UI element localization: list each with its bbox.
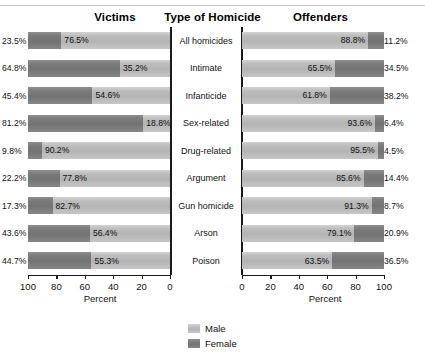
legend-swatch-female-icon (188, 339, 200, 348)
victims-male-segment: 82.7% (53, 197, 170, 214)
header-offenders: Offenders (268, 11, 373, 23)
axis-tick (299, 275, 300, 279)
offenders-male-value: 61.8% (302, 91, 326, 100)
category-label: Drug-related (172, 142, 240, 159)
offenders-male-segment: 61.8% (242, 87, 330, 104)
victims-male-segment: 18.8% (143, 115, 170, 132)
victims-female-segment (28, 32, 61, 49)
axis-tick (242, 275, 243, 279)
header-victims: Victims (60, 11, 170, 23)
victims-male-segment: 76.5% (61, 32, 170, 49)
offenders-female-value: 8.7% (384, 197, 404, 214)
chart-row: 22.2%77.8%Argument85.6%14.4% (0, 165, 425, 192)
offenders-female-value: 14.4% (384, 170, 408, 187)
offenders-female-segment (372, 197, 384, 214)
category-label: Intimate (172, 60, 240, 77)
offenders-female-segment (354, 225, 384, 242)
victims-male-segment: 54.6% (92, 87, 170, 104)
offenders-male-value: 95.5% (350, 146, 374, 155)
victims-male-value: 76.5% (64, 36, 88, 45)
offenders-bar: 93.6% (242, 115, 384, 132)
offenders-male-value: 79.1% (327, 229, 351, 238)
top-divider (0, 5, 425, 6)
axis-line (242, 275, 384, 276)
offenders-male-segment: 91.3% (242, 197, 372, 214)
victims-bar: 77.8% (28, 170, 170, 187)
offenders-female-value: 38.2% (384, 87, 408, 104)
victims-male-value: 90.2% (45, 146, 69, 155)
offenders-male-segment: 85.6% (242, 170, 364, 187)
offenders-bar: 79.1% (242, 225, 384, 242)
axis-tick (56, 275, 57, 279)
victims-female-segment (28, 225, 90, 242)
category-label: Gun homicide (172, 197, 240, 214)
victims-female-segment (28, 252, 91, 269)
chart-row: 44.7%55.3%Poison63.5%36.5% (0, 247, 425, 274)
axis-tick-label: 0 (230, 281, 254, 292)
victims-male-value: 55.3% (94, 257, 118, 266)
category-label: Infanticide (172, 87, 240, 104)
axis-tick (113, 275, 114, 279)
legend-item-female: Female (188, 337, 237, 350)
axis-tick-label: 60 (73, 281, 97, 292)
victims-male-segment: 55.3% (91, 252, 170, 269)
victims-male-value: 77.8% (63, 174, 87, 183)
victims-female-value: 81.2% (2, 115, 26, 132)
axis-tick (85, 275, 86, 279)
victims-male-value: 82.7% (56, 202, 80, 211)
victims-bar: 56.4% (28, 225, 170, 242)
left-axis-title: Percent (0, 293, 200, 304)
axis-tick (270, 275, 271, 279)
chart-row: 23.5%76.5%All homicides88.8%11.2% (0, 27, 425, 54)
offenders-female-segment (332, 252, 384, 269)
axis-tick (142, 275, 143, 279)
axis-tick (170, 275, 171, 279)
offenders-male-segment: 79.1% (242, 225, 354, 242)
homicide-gender-chart: Victims Type of Homicide Offenders 23.5%… (0, 0, 425, 354)
victims-bar: 82.7% (28, 197, 170, 214)
victims-bar: 54.6% (28, 87, 170, 104)
right-axis: Percent 020406080100 (225, 275, 425, 305)
offenders-female-segment (330, 87, 384, 104)
victims-female-segment (28, 142, 42, 159)
offenders-bar: 91.3% (242, 197, 384, 214)
chart-row: 43.6%56.4%Arson79.1%20.9% (0, 220, 425, 247)
victims-bar: 90.2% (28, 142, 170, 159)
victims-bar: 18.8% (28, 115, 170, 132)
victims-male-segment: 90.2% (42, 142, 170, 159)
offenders-male-value: 63.5% (305, 257, 329, 266)
victims-female-segment (28, 170, 60, 187)
axis-line (28, 275, 170, 276)
axis-tick (28, 275, 29, 279)
victims-bar: 55.3% (28, 252, 170, 269)
legend-item-male: Male (188, 322, 237, 335)
legend: Male Female (188, 322, 237, 352)
offenders-female-segment (375, 115, 384, 132)
victims-female-segment (28, 115, 143, 132)
offenders-female-value: 34.5% (384, 60, 408, 77)
victims-female-value: 23.5% (2, 32, 26, 49)
offenders-male-segment: 88.8% (242, 32, 368, 49)
legend-swatch-male-icon (188, 324, 200, 333)
axis-tick (356, 275, 357, 279)
axis-tick-label: 40 (287, 281, 311, 292)
axis-tick-label: 80 (44, 281, 68, 292)
offenders-male-value: 91.3% (344, 202, 368, 211)
victims-female-value: 17.3% (2, 197, 26, 214)
offenders-male-value: 88.8% (341, 36, 365, 45)
victims-bar: 76.5% (28, 32, 170, 49)
axis-tick-label: 20 (258, 281, 282, 292)
legend-label-female: Female (205, 338, 237, 349)
offenders-female-segment (364, 170, 384, 187)
offenders-female-value: 36.5% (384, 252, 408, 269)
offenders-bar: 95.5% (242, 142, 384, 159)
offenders-male-value: 93.6% (348, 119, 372, 128)
victims-female-segment (28, 197, 53, 214)
offenders-male-value: 85.6% (336, 174, 360, 183)
victims-bar: 35.2% (28, 60, 170, 77)
offenders-female-value: 11.2% (384, 32, 408, 49)
offenders-bar: 85.6% (242, 170, 384, 187)
plot-area: 23.5%76.5%All homicides88.8%11.2%64.8%35… (0, 27, 425, 275)
offenders-male-segment: 63.5% (242, 252, 332, 269)
victims-male-segment: 77.8% (60, 170, 170, 187)
